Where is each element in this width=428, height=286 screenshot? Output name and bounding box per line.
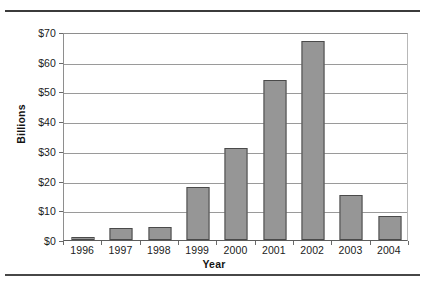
x-axis-tick-label: 2004 (366, 245, 412, 256)
x-axis-tick-mark (370, 241, 371, 245)
y-axis-tick-mark (59, 211, 63, 212)
bar-chart-figure: Billions Year $0$10$20$30$40$50$60$70199… (0, 0, 428, 286)
y-axis-tick-label: $60 (14, 58, 56, 68)
bar-slot (64, 34, 102, 240)
bar (378, 216, 401, 240)
bar-slot (102, 34, 140, 240)
bar (148, 227, 171, 240)
bar-slot (217, 34, 255, 240)
y-axis-tick-mark (59, 182, 63, 183)
x-axis-tick-mark (408, 241, 409, 245)
y-axis-tick-mark (59, 63, 63, 64)
bar-series (64, 34, 407, 240)
bar (72, 237, 95, 240)
x-axis-title: Year (0, 258, 428, 270)
y-axis-tick-label: $50 (14, 87, 56, 97)
x-axis-tick-mark (255, 241, 256, 245)
x-axis-tick-mark (63, 241, 64, 245)
page-rule-top (5, 10, 420, 12)
bar-slot (179, 34, 217, 240)
x-axis-tick-mark (101, 241, 102, 245)
y-axis-tick-mark (59, 122, 63, 123)
bar (187, 187, 210, 240)
bar-slot (294, 34, 332, 240)
y-axis-tick-label: $70 (14, 28, 56, 38)
y-axis-tick-mark (59, 33, 63, 34)
x-axis-tick-mark (140, 241, 141, 245)
y-axis-tick-mark (59, 152, 63, 153)
bar (225, 148, 248, 240)
bar (302, 41, 325, 240)
y-axis-tick-label: $0 (14, 236, 56, 246)
x-axis-tick-mark (331, 241, 332, 245)
plot-area (63, 33, 408, 241)
bar-slot (256, 34, 294, 240)
x-axis-tick-mark (216, 241, 217, 245)
x-axis-tick-mark (293, 241, 294, 245)
bar-slot (141, 34, 179, 240)
y-axis-tick-mark (59, 92, 63, 93)
page-rule-bottom (5, 274, 420, 276)
bar-slot (332, 34, 370, 240)
y-axis-tick-label: $20 (14, 177, 56, 187)
x-axis-tick-mark (178, 241, 179, 245)
y-axis-tick-label: $10 (14, 206, 56, 216)
bar (263, 80, 286, 240)
bar (340, 195, 363, 240)
y-axis-tick-label: $30 (14, 147, 56, 157)
y-axis-tick-label: $40 (14, 117, 56, 127)
bar-slot (371, 34, 409, 240)
bar (110, 228, 133, 240)
